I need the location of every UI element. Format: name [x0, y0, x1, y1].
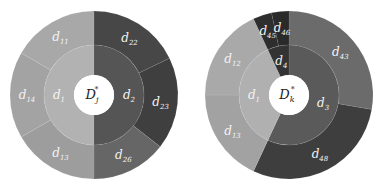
center-label: Dj* [85, 85, 99, 104]
sunburst-figure: d22d23d26d13d14d11d1d2Dj*d43d48d13d12d45… [0, 0, 381, 191]
center-label: Dk* [278, 85, 294, 104]
sunburst-chart-2: d43d48d13d12d45d46d3d1d4Dk* [205, 11, 373, 179]
sunburst-chart-1: d22d23d26d13d14d11d1d2Dj* [10, 11, 178, 179]
